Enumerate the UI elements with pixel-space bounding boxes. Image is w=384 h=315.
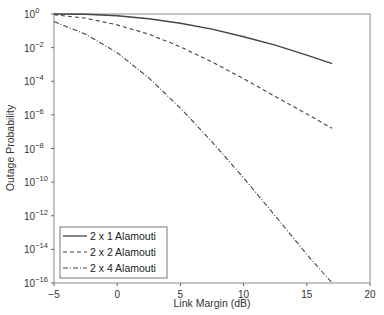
series-line-2 [54, 15, 332, 129]
y-tick-label: 10−12 [24, 208, 48, 222]
y-tick-label: 10−4 [24, 73, 44, 87]
x-tick-label: −5 [48, 289, 60, 300]
x-tick-label: 0 [114, 289, 120, 300]
y-tick-label: 10−14 [24, 241, 48, 255]
y-axis: 10010−210−410−610−810−1010−1210−1410−16 [24, 6, 54, 289]
y-tick-label: 10−16 [24, 275, 48, 289]
series-line-1 [54, 14, 332, 64]
chart: 10010−210−410−610−810−1010−1210−1410−16 … [0, 0, 384, 315]
legend: 2 x 1 Alamouti 2 x 2 Alamouti 2 x 4 Alam… [60, 227, 167, 278]
y-tick-label: 10−6 [24, 107, 44, 121]
y-tick-label: 10−2 [24, 40, 44, 54]
y-axis-label: Outage Probability [4, 104, 16, 191]
legend-item-2x2: 2 x 2 Alamouti [90, 246, 156, 258]
y-tick-label: 100 [24, 6, 39, 20]
legend-item-2x1: 2 x 1 Alamouti [90, 230, 156, 242]
y-tick-label: 10−8 [24, 141, 44, 155]
x-tick-label: 15 [301, 289, 313, 300]
legend-item-2x4: 2 x 4 Alamouti [90, 262, 156, 274]
x-tick-label: 20 [364, 289, 376, 300]
x-axis-label: Link Margin (dB) [173, 297, 250, 309]
y-tick-label: 10−10 [24, 174, 48, 188]
